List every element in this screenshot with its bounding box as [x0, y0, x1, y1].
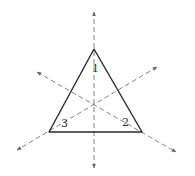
axis-label-1: 1	[92, 62, 99, 75]
symmetry-diagram: 1 2 3	[0, 0, 195, 176]
axis-label-3: 3	[61, 117, 68, 130]
axis-label-2: 2	[122, 116, 129, 129]
axis-2	[37, 72, 176, 152]
axis-3	[17, 67, 157, 150]
